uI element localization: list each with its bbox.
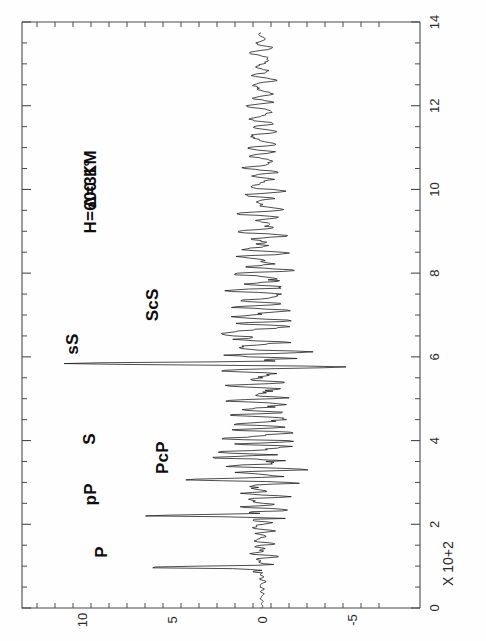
svg-text:10: 10 xyxy=(75,613,90,627)
time-tick-label: 6 xyxy=(427,353,442,360)
svg-text:4: 4 xyxy=(427,437,442,444)
svg-text:6: 6 xyxy=(427,353,442,360)
svg-text:5: 5 xyxy=(165,616,180,623)
svg-text:12: 12 xyxy=(427,98,442,112)
plot-text-labels: 024681012141050-5X 10+2Δ=31°H=600 KMPpPP… xyxy=(63,15,456,627)
amplitude-tick-label: 5 xyxy=(165,616,180,623)
plot-annotation-sS: sS xyxy=(63,334,82,355)
svg-text:PcP: PcP xyxy=(153,441,172,474)
svg-text:H=600 KM: H=600 KM xyxy=(81,150,100,233)
seismogram-figure: 024681012141050-5X 10+2Δ=31°H=600 KMPpPP… xyxy=(0,0,486,641)
svg-text:14: 14 xyxy=(427,15,442,29)
time-tick-label: 4 xyxy=(427,437,442,444)
plot-axes xyxy=(22,22,420,608)
svg-text:ScS: ScS xyxy=(143,289,162,322)
time-tick-label: 14 xyxy=(427,15,442,29)
seismogram-plot: 024681012141050-5X 10+2Δ=31°H=600 KMPpPP… xyxy=(0,0,486,641)
plot-annotation-H600KM: H=600 KM xyxy=(81,150,100,233)
svg-text:S: S xyxy=(80,433,99,445)
plot-annotation-pP: pP xyxy=(81,483,100,505)
plot-annotation-PcP: PcP xyxy=(153,441,172,474)
time-tick-label: 12 xyxy=(427,98,442,112)
svg-text:2: 2 xyxy=(427,521,442,528)
amplitude-tick-label: 0 xyxy=(255,616,270,623)
svg-text:10: 10 xyxy=(427,182,442,196)
plot-annotation-S: S xyxy=(80,433,99,445)
time-tick-label: 0 xyxy=(427,604,442,611)
time-tick-label: 10 xyxy=(427,182,442,196)
svg-text:8: 8 xyxy=(427,270,442,277)
svg-text:X 10+2: X 10+2 xyxy=(440,541,456,586)
svg-text:0: 0 xyxy=(255,616,270,623)
amplitude-tick-label: 10 xyxy=(75,613,90,627)
time-axis-title: X 10+2 xyxy=(440,541,456,586)
plot-annotation-ScS: ScS xyxy=(143,289,162,322)
waveform-trace-group xyxy=(64,33,346,608)
axis-spine-left-bottom xyxy=(22,22,420,608)
amplitude-tick-label: -5 xyxy=(345,614,360,626)
svg-text:P: P xyxy=(92,546,111,558)
svg-text:sS: sS xyxy=(63,334,82,355)
svg-text:-5: -5 xyxy=(345,614,360,626)
svg-text:pP: pP xyxy=(81,483,100,505)
seismogram-waveform xyxy=(64,33,346,608)
time-tick-label: 2 xyxy=(427,521,442,528)
time-tick-label: 8 xyxy=(427,270,442,277)
svg-text:0: 0 xyxy=(427,604,442,611)
plot-annotation-P: P xyxy=(92,546,111,558)
